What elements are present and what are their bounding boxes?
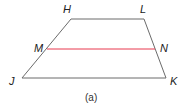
vertex-label-l: L [140, 3, 146, 15]
trapezoid-diagram: H L M N J K (a) [0, 0, 187, 112]
point-label-n: N [160, 42, 168, 54]
vertex-label-j: J [8, 75, 15, 87]
vertex-label-k: K [170, 75, 178, 87]
figure-caption: (a) [85, 92, 97, 103]
point-label-m: M [34, 42, 44, 54]
vertex-label-h: H [63, 3, 71, 15]
